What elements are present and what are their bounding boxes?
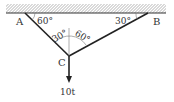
arrow-head-icon bbox=[66, 76, 72, 83]
angle-arc-a bbox=[32, 13, 35, 20]
label-c: C bbox=[58, 57, 66, 68]
angle-arc-b bbox=[136, 13, 137, 19]
label-b: B bbox=[153, 16, 160, 27]
angle-label-b: 30° bbox=[115, 16, 131, 26]
force-diagram: A B C 60° 30° 30° 60° 10t bbox=[0, 0, 174, 102]
angle-label-a: 60° bbox=[37, 16, 53, 26]
load-label: 10t bbox=[60, 87, 75, 97]
angle-label-c-left: 30° bbox=[50, 28, 69, 45]
label-a: A bbox=[15, 16, 24, 27]
ceiling bbox=[6, 4, 166, 13]
angle-label-c-right: 60° bbox=[73, 28, 92, 45]
